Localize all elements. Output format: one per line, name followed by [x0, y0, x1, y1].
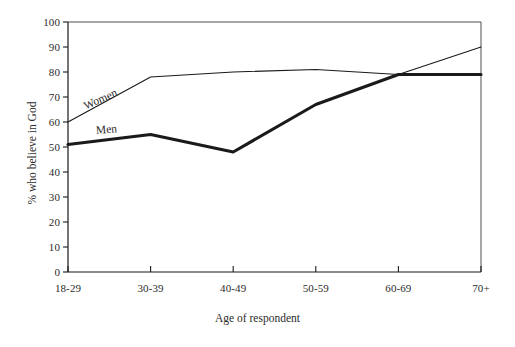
- series-line-men: [68, 75, 481, 153]
- plot-area: [0, 0, 515, 347]
- chart-figure: % who believe in God Age of respondent 0…: [0, 0, 515, 347]
- axes: [68, 22, 481, 272]
- y-axis-ticks: [63, 22, 68, 272]
- x-axis-ticks: [68, 266, 481, 272]
- data-series-lines: [68, 47, 481, 152]
- series-label-men: Men: [95, 122, 117, 136]
- series-line-women: [68, 47, 481, 122]
